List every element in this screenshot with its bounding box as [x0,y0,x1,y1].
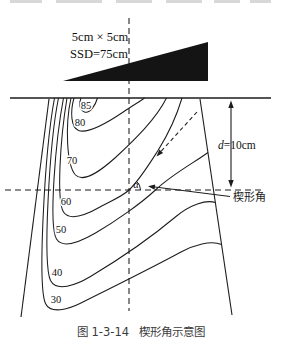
isodose-label-40: 40 [52,267,63,278]
scan-artifact [10,0,271,3]
beam-edge-left [21,99,49,317]
ssd-label: SSD=75cm [70,47,128,61]
figure-wedge-angle: 5cm × 5cm SSD=75cm 85 80 70 60 50 40 30 … [0,0,281,357]
isodose-label-70: 70 [67,155,78,166]
depth-label-value: =10cm [224,139,256,151]
isodose-label-80: 80 [75,117,86,128]
wedge-angle-arrowhead-icon [148,185,155,190]
wedge-angle-label: 楔形角 [233,191,266,204]
alpha-symbol: α [133,179,139,190]
figure-caption-number: 图 1-3-14 [77,325,129,339]
figure-caption-title: 楔形角示意图 [139,325,205,339]
depth-arrow-up-icon [228,101,233,109]
depth-dimension: d=10cm [218,101,256,188]
isodose-curve-40 [47,98,216,287]
field-size-label: 5cm × 5cm [72,30,129,44]
isodose-label-85: 85 [81,100,92,111]
depth-arrow-down-icon [228,180,233,188]
tangent-dashed-arrow-line [160,112,197,153]
isodose-label-60: 60 [61,196,72,207]
figure-caption: 图 1-3-14楔形角示意图 [77,325,205,339]
isodose-curve-60 [60,98,182,217]
beam-edge-right [200,99,232,315]
wedge-angle-diagram: 5cm × 5cm SSD=75cm 85 80 70 60 50 40 30 … [0,0,281,357]
isodose-label-30: 30 [51,294,62,305]
depth-label: d=10cm [218,139,256,151]
isodose-label-50: 50 [56,224,67,235]
wedge-angle-pointer-line [151,187,230,197]
